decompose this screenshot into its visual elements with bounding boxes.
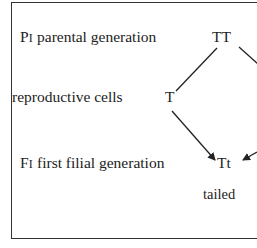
arrow-gamete-to-offspring <box>172 111 215 160</box>
arrow-offscreen-to-offspring <box>243 152 257 160</box>
line-parent-to-offscreen <box>239 47 257 64</box>
line-parent-to-gamete <box>176 48 217 91</box>
connector-lines <box>0 0 257 248</box>
